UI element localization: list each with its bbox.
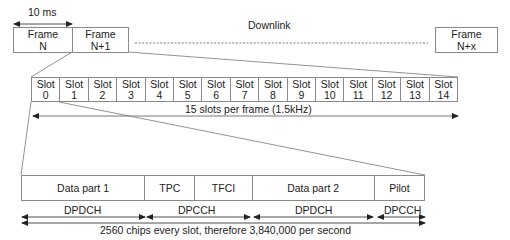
slot-9: Slot9	[288, 78, 316, 101]
slot-10: Slot10	[316, 78, 344, 101]
data-part-2: Data part 2	[253, 176, 375, 200]
slot-4: Slot4	[146, 78, 174, 101]
slot-5: Slot5	[174, 78, 202, 101]
slot-row: Slot0 Slot1 Slot2 Slot3 Slot4 Slot5 Slot…	[31, 77, 458, 102]
frame-n: Frame N	[13, 27, 73, 53]
slot-8: Slot8	[259, 78, 287, 101]
dpch-frame-structure-diagram: 10 ms Downlink Frame N Frame N+1 Frame N…	[0, 0, 510, 240]
slot-12: Slot12	[373, 78, 401, 101]
tfci-field: TFCI	[195, 176, 252, 200]
dpdch-label-1: DPDCH	[64, 204, 101, 216]
slot-3: Slot3	[117, 78, 145, 101]
slots-per-frame-label: 15 slots per frame (1.5kHz)	[185, 103, 312, 115]
frame-n-plus-x: Frame N+x	[435, 27, 498, 53]
slot-11: Slot11	[344, 78, 372, 101]
slot-6: Slot6	[202, 78, 230, 101]
slot-14: Slot14	[430, 78, 458, 101]
pilot-field: Pilot	[375, 176, 425, 200]
slot-1: Slot1	[60, 78, 88, 101]
slot-2: Slot2	[89, 78, 117, 101]
frame-duration-label: 10 ms	[28, 6, 57, 18]
dpcch-label-1: DPCCH	[178, 204, 215, 216]
slot-13: Slot13	[401, 78, 429, 101]
dpdch-label-2: DPDCH	[295, 204, 332, 216]
slot-0: Slot0	[32, 78, 60, 101]
data-part-1: Data part 1	[22, 176, 145, 200]
chips-per-slot-caption: 2560 chips every slot, therefore 3,840,0…	[100, 224, 351, 236]
frame-n-plus-1: Frame N+1	[72, 27, 129, 53]
slot-structure-row: Data part 1 TPC TFCI Data part 2 Pilot	[21, 175, 425, 201]
tpc-field: TPC	[145, 176, 195, 200]
slot-7: Slot7	[231, 78, 259, 101]
dpcch-label-2: DPCCH	[384, 204, 421, 216]
downlink-label: Downlink	[248, 19, 291, 31]
